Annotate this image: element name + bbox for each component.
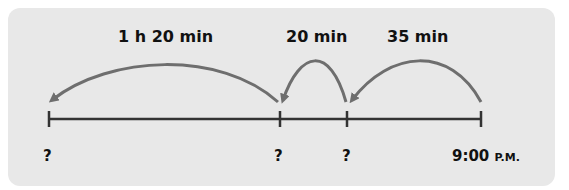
tick-label-2: ? (274, 147, 283, 165)
time-suffix: P.M. (495, 151, 520, 164)
arrow-35min (352, 61, 481, 102)
tick-label-1: ? (43, 147, 52, 165)
number-line (49, 111, 481, 127)
arrow-20min (283, 61, 346, 102)
jump-label-2: 20 min (286, 27, 347, 46)
time-value: 9:00 (452, 147, 489, 165)
jump-label-1: 1 h 20 min (118, 27, 213, 46)
arrow-1h20min (52, 65, 278, 102)
jump-label-3: 35 min (387, 27, 448, 46)
tick-label-3: ? (342, 147, 351, 165)
tick-label-4: 9:00 P.M. (452, 147, 520, 165)
